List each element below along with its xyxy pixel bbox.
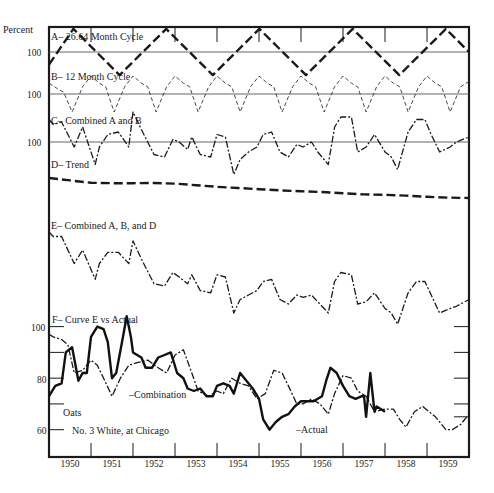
x-tick-label: 1955	[271, 459, 290, 469]
panel-f-ytick-100: 100	[31, 323, 46, 333]
commodity-label: Oats	[63, 407, 81, 418]
plot-frame	[49, 27, 469, 457]
x-tick-label: 1959	[439, 459, 458, 469]
series-line-e-combined-a-b-and-d	[49, 232, 469, 324]
x-tick-label: 1958	[397, 459, 416, 469]
x-tick-label: 1953	[187, 459, 206, 469]
series-line-f-actual	[49, 316, 385, 429]
panel-d-title: D– Trend	[51, 159, 89, 170]
x-tick-label: 1951	[103, 459, 122, 469]
panel-b-baseline-label: 100	[27, 90, 42, 100]
x-tick-label: 1954	[229, 459, 248, 469]
chart-svg: Percent 19501951195219531954195519561957…	[0, 0, 494, 493]
combination-annotation: –Combination	[128, 389, 186, 400]
series-line-d-trend	[49, 178, 469, 198]
panel-a-baseline-label: 100	[27, 48, 42, 58]
x-tick-label: 1950	[61, 459, 80, 469]
panel-e-title: E– Combined A, B, and D	[51, 220, 156, 231]
x-axis-year-labels: 1950195119521953195419551956195719581959	[61, 459, 458, 469]
panel-c-title: C– Combined A and B	[51, 115, 142, 126]
x-tick-label: 1957	[355, 459, 374, 469]
commodity-sublabel: No. 3 White, at Chicago	[72, 425, 169, 436]
x-tick-label: 1952	[145, 459, 164, 469]
panel-c-baseline-label: 100	[27, 138, 42, 148]
panel-f-ytick-60: 60	[37, 426, 47, 436]
x-tick-label: 1956	[313, 459, 332, 469]
panel-f-ytick-80: 80	[37, 375, 47, 385]
bottom-year-ticks	[91, 443, 427, 457]
series-line-f-combination	[49, 334, 469, 429]
actual-annotation: –Actual	[295, 424, 328, 435]
y-axis-unit-label: Percent	[3, 24, 33, 35]
panel-f-right-ticks	[454, 327, 469, 417]
